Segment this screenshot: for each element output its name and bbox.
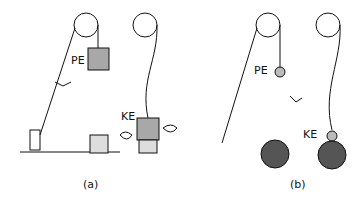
caption-b: (b) [290,178,306,191]
pulley-icon [133,13,157,37]
pulley-icon [74,13,98,37]
diagram [0,0,362,203]
ball [318,141,346,169]
ball [261,140,289,168]
panel-a [20,13,177,153]
caption-a: (a) [83,178,98,191]
pulley-icon [316,13,340,37]
block-ke [137,118,159,140]
ke-label-a: KE [121,110,135,123]
winch-icon [30,130,40,150]
ke-label-b: KE [303,128,317,141]
pe-label-a: PE [71,54,85,67]
pulley-icon [256,13,280,37]
small-ball-ke [327,131,337,141]
small-ball-pe [275,67,285,77]
bucket [90,135,108,153]
panel-b [222,13,346,169]
block-pe [88,48,109,70]
pe-label-b: PE [254,64,268,77]
